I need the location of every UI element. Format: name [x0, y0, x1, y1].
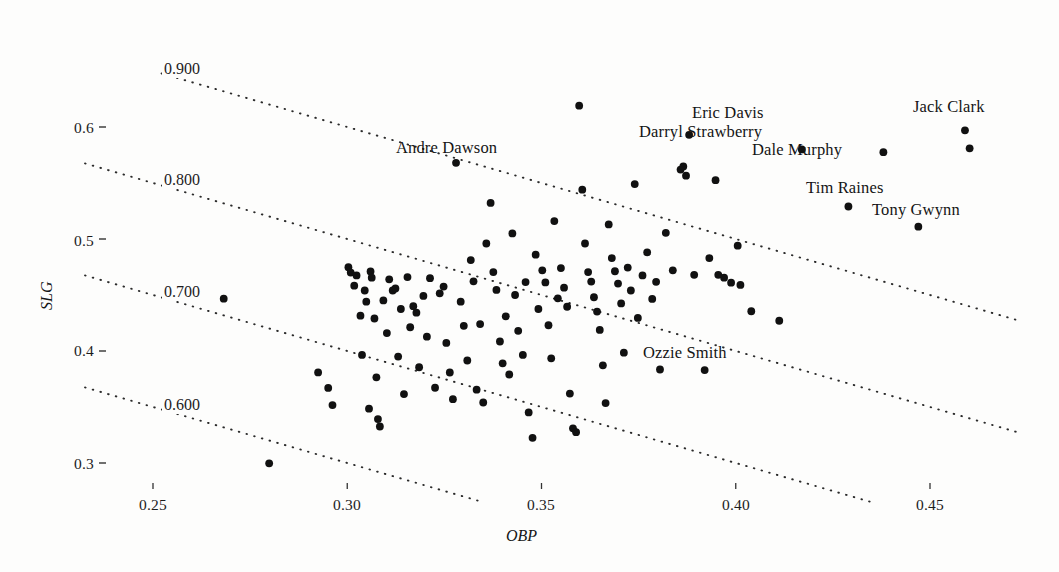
data-point — [392, 285, 400, 293]
data-point — [440, 283, 448, 291]
data-point — [406, 323, 414, 331]
contour-label-0700: 0.700 — [162, 283, 202, 301]
data-point — [529, 434, 537, 442]
data-point — [611, 267, 619, 275]
data-point — [452, 159, 460, 167]
data-point — [547, 354, 555, 362]
data-point — [652, 278, 660, 286]
data-point — [525, 408, 533, 416]
data-point — [605, 221, 613, 229]
data-point — [538, 266, 546, 274]
data-point — [400, 390, 408, 398]
data-point — [489, 268, 497, 276]
data-point — [602, 399, 610, 407]
data-point — [519, 351, 527, 359]
data-point — [372, 373, 380, 381]
data-point — [449, 395, 457, 403]
x-tick-label-2: 0.35 — [501, 496, 581, 514]
data-point — [361, 287, 369, 295]
point-label-dale-murphy: Dale Murphy — [752, 140, 842, 160]
data-point — [578, 186, 586, 194]
y-tick-label-1: 0.5 — [52, 232, 94, 250]
data-point — [608, 254, 616, 262]
data-point — [590, 293, 598, 301]
scatter-plot-figure: 0.6 0.5 0.4 0.3 0.25 0.30 0.35 0.40 0.45… — [0, 0, 1059, 572]
data-point — [413, 309, 421, 317]
data-point — [639, 272, 647, 280]
data-point — [624, 264, 632, 272]
data-point — [682, 172, 690, 180]
data-point — [879, 148, 887, 156]
data-point — [627, 287, 635, 295]
data-point — [550, 217, 558, 225]
point-label-andre-dawson: Andre Dawson — [396, 138, 497, 158]
data-point — [720, 274, 728, 282]
data-point — [473, 386, 481, 394]
data-point — [541, 279, 549, 287]
data-point — [560, 284, 568, 292]
data-point — [426, 274, 434, 282]
data-point — [499, 359, 507, 367]
data-point — [265, 459, 273, 467]
data-point — [554, 294, 562, 302]
point-label-ozzie-smith: Ozzie Smith — [643, 343, 727, 363]
data-point — [357, 312, 365, 320]
data-point — [747, 307, 755, 315]
point-label-darryl-strawberry: Darryl Strawberry — [639, 122, 762, 142]
data-point — [371, 315, 379, 323]
data-point — [487, 199, 495, 207]
data-point — [966, 144, 974, 152]
data-point — [514, 327, 522, 335]
data-point — [479, 399, 487, 407]
point-label-jack-clark: Jack Clark — [913, 97, 985, 117]
data-point — [737, 281, 745, 289]
x-tick-label-0: 0.25 — [113, 496, 193, 514]
point-label-tony-gwynn: Tony Gwynn — [872, 200, 960, 220]
data-point — [324, 384, 332, 392]
point-label-eric-davis: Eric Davis — [692, 103, 764, 123]
data-point — [467, 256, 475, 264]
contour-label-0600: 0.600 — [162, 396, 202, 414]
data-point — [362, 298, 370, 306]
ops-contour-lines — [85, 73, 1017, 501]
data-point — [532, 251, 540, 259]
data-point — [394, 353, 402, 361]
data-point — [584, 268, 592, 276]
y-tick-label-0: 0.6 — [52, 119, 94, 137]
data-point — [482, 240, 490, 248]
data-point — [457, 298, 465, 306]
data-point — [502, 312, 510, 320]
data-point — [493, 286, 501, 294]
data-point — [446, 369, 454, 377]
data-point — [415, 363, 423, 371]
data-point — [431, 384, 439, 392]
data-points — [220, 102, 974, 467]
data-point — [496, 338, 504, 346]
data-point — [775, 317, 783, 325]
data-point — [314, 368, 322, 376]
data-point — [631, 180, 639, 188]
data-point — [620, 349, 628, 357]
y-axis-title: SLG — [38, 282, 56, 310]
data-point — [385, 275, 393, 283]
ops-contour-06 — [85, 387, 481, 501]
data-point — [648, 295, 656, 303]
data-point — [961, 126, 969, 134]
data-point — [508, 230, 516, 238]
data-point — [845, 203, 853, 211]
y-tick-label-3: 0.3 — [52, 455, 94, 473]
data-point — [914, 223, 922, 231]
data-point — [587, 278, 595, 286]
data-point — [353, 272, 361, 280]
data-point — [436, 289, 444, 297]
data-point — [581, 240, 589, 248]
data-point — [476, 320, 484, 328]
data-point — [734, 242, 742, 250]
data-point — [563, 303, 571, 311]
data-point — [463, 357, 471, 365]
x-tick-label-1: 0.30 — [307, 496, 387, 514]
data-point — [511, 291, 519, 299]
data-point — [379, 296, 387, 304]
data-point — [470, 277, 478, 285]
data-point — [599, 361, 607, 369]
